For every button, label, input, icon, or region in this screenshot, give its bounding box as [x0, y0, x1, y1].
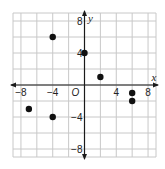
axes — [10, 10, 159, 160]
data-point — [129, 90, 135, 96]
data-points — [26, 34, 136, 120]
data-point — [50, 34, 56, 40]
x-tick-label: −4 — [47, 87, 59, 98]
origin-label: O — [72, 87, 80, 98]
data-point — [26, 106, 32, 112]
x-tick-label: 4 — [113, 87, 119, 98]
y-tick-label: −8 — [71, 144, 83, 155]
data-point — [50, 114, 56, 120]
x-tick-label: 8 — [145, 87, 151, 98]
coordinate-plane: −8−44884−4−8xyO — [0, 0, 165, 169]
x-axis-label: x — [151, 71, 157, 83]
data-point — [129, 98, 135, 104]
x-tick-label: −8 — [15, 87, 27, 98]
y-tick-label: −4 — [71, 112, 83, 123]
y-axis-label: y — [87, 12, 93, 24]
y-tick-label: 8 — [77, 16, 83, 27]
data-point — [97, 74, 103, 80]
data-point — [81, 50, 87, 56]
